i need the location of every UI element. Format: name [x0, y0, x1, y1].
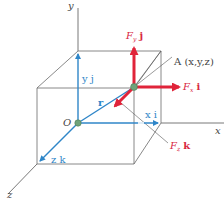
fz-label: Fz k — [170, 141, 190, 154]
z-axis — [8, 164, 37, 194]
force-components-diagram — [0, 0, 224, 203]
leader-lines — [120, 51, 172, 143]
point-a-label: A (x,y,z) — [174, 57, 214, 67]
axes — [8, 8, 224, 194]
xi-label: x i — [145, 110, 157, 120]
z-axis-label: z — [7, 190, 12, 200]
zk-label: z k — [51, 155, 66, 165]
y-axis-label: y — [68, 1, 74, 11]
fx-label: Fx i — [183, 82, 200, 95]
point-a — [131, 84, 138, 91]
origin-label: O — [63, 118, 71, 128]
origin-point — [75, 120, 81, 126]
yj-label: y j — [82, 74, 94, 84]
r-vector — [78, 89, 131, 123]
x-axis-label: x — [215, 126, 221, 136]
fz-vector — [115, 87, 134, 106]
r-label: r — [98, 98, 103, 108]
fy-label: Fy j — [126, 31, 143, 44]
